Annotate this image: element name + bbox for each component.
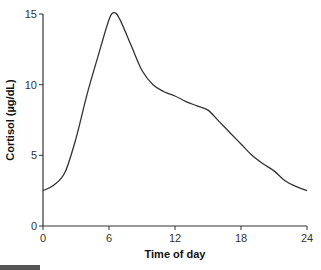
y-tick-label: 15 <box>25 8 37 20</box>
cortisol-line <box>43 13 307 191</box>
y-tick-label: 0 <box>31 220 37 232</box>
x-tick-label: 18 <box>235 232 247 244</box>
cortisol-chart: 051015 06121824 Time of day Cortisol (µg… <box>0 0 321 270</box>
x-tick-label: 24 <box>301 232 313 244</box>
x-tick-label: 0 <box>40 232 46 244</box>
y-tick-label: 10 <box>25 79 37 91</box>
x-ticks: 06121824 <box>40 226 313 244</box>
y-tick-label: 5 <box>31 149 37 161</box>
axes <box>43 14 307 226</box>
y-ticks: 051015 <box>25 8 43 232</box>
x-axis-label: Time of day <box>145 248 207 260</box>
caption-bar <box>0 265 40 270</box>
x-tick-label: 6 <box>106 232 112 244</box>
y-axis-label: Cortisol (µg/dL) <box>4 79 16 161</box>
x-tick-label: 12 <box>169 232 181 244</box>
